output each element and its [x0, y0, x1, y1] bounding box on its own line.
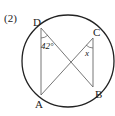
angle-arc-D — [41, 35, 48, 38]
point-label-D: D — [33, 16, 41, 28]
point-label-C: C — [93, 26, 100, 38]
angle-label-x: x — [84, 48, 89, 58]
point-label-A: A — [35, 98, 43, 110]
angle-label-42: 42° — [41, 41, 54, 51]
point-label-B: B — [95, 88, 102, 100]
inscribed-angle-diagram: (2) D C B A 42° x — [0, 0, 115, 116]
problem-number: (2) — [4, 12, 17, 25]
